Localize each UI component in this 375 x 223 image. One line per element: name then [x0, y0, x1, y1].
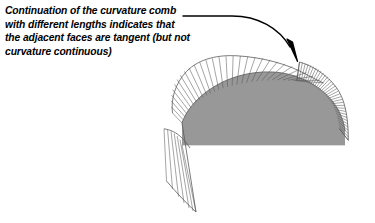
curved-arrow-leader: [183, 16, 298, 62]
annotation-text: Continuation of the curvature comb with …: [5, 4, 190, 58]
figure-root: Continuation of the curvature comb with …: [0, 0, 375, 223]
